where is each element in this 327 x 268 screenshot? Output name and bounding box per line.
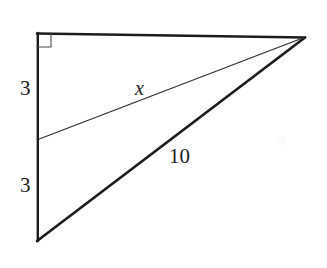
scan-artifact-speck (277, 136, 286, 145)
cevian-line (38, 38, 304, 140)
triangle-diagram-canvas (0, 0, 327, 268)
label-hypotenuse-10: 10 (169, 146, 190, 167)
geometry-figure: 3 3 x 10 (0, 0, 327, 268)
hypotenuse-line (37, 38, 305, 242)
label-upper-leg: 3 (20, 78, 31, 99)
right-angle-marker-icon (38, 34, 52, 47)
top-edge-line (37, 34, 305, 38)
label-unknown-x: x (135, 78, 144, 98)
label-lower-leg: 3 (20, 175, 31, 196)
